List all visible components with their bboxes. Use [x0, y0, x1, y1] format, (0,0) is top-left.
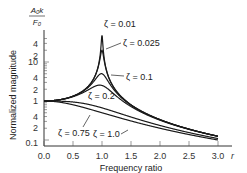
x-tick-labels: 0.0 0.5 1.0 1.5 2.0 2.5 3.0 r: [38, 151, 235, 161]
frequency-response-chart: A₀k F₀ Normalized magnitude 4 2 10 4 2 1…: [0, 0, 247, 173]
y-tick-0-1: 0.1: [25, 138, 38, 148]
x-tick-0-5: 0.5: [67, 151, 80, 161]
x-tick-1: 1.0: [96, 151, 109, 161]
curve-0-1: [44, 74, 218, 137]
label-zeta-1-0: ζ = 1.0: [93, 129, 120, 139]
y-tick-2: 2: [33, 85, 38, 95]
x-axis-title: Frequency ratio: [100, 163, 163, 173]
y-tick-0-4: 4: [33, 112, 38, 122]
y-fraction-denominator: F₀: [33, 18, 42, 27]
label-zeta-0-1: ζ = 0.1: [126, 72, 153, 82]
y-tick-4: 4: [33, 73, 38, 83]
y-axis-title: Normalized magnitude: [8, 50, 18, 140]
label-zeta-0-2: ζ = 0.2: [88, 91, 115, 101]
response-curves: [44, 35, 218, 140]
x-symbol: r: [231, 151, 235, 161]
y-tick-40: 4: [33, 39, 38, 49]
arrow-zeta-0-025: [106, 43, 121, 49]
label-zeta-0-025: ζ = 0.025: [123, 38, 160, 48]
label-zeta-0-01: ζ = 0.01: [104, 19, 136, 29]
x-tick-2: 2.0: [154, 151, 167, 161]
y-tick-1: 1: [33, 96, 38, 106]
label-zeta-0-75: ζ = 0.75: [58, 128, 90, 138]
y-tick-labels: 4 2 10 4 2 1 4 2 0.1: [25, 39, 38, 148]
x-tick-2-5: 2.5: [183, 151, 196, 161]
curve-0-025: [44, 50, 218, 136]
y-axis-ticks: [44, 39, 49, 140]
y-fraction-numerator: A₀k: [30, 6, 45, 15]
arrow-zeta-1-0: [121, 130, 128, 134]
y-tick-10: 10: [28, 57, 38, 67]
x-tick-1-5: 1.5: [125, 151, 138, 161]
arrow-zeta-0-75: [83, 115, 90, 127]
x-axis-ticks: [44, 141, 218, 146]
x-tick-3: 3.0: [212, 151, 225, 161]
x-tick-0: 0.0: [38, 151, 51, 161]
y-tick-0-2: 2: [33, 123, 38, 133]
arrow-zeta-0-1: [111, 75, 124, 76]
